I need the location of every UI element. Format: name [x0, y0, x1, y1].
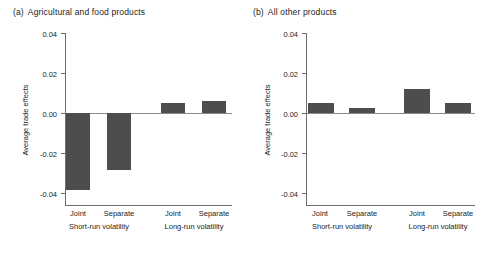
panel-a-ytick-1: 0.02	[61, 73, 66, 74]
panel-b-bar-label-0: Joint	[312, 209, 328, 218]
panel-a-ytick-label-0: 0.04	[42, 29, 57, 38]
panel-b: (b)All other products Average trade effe…	[242, 0, 484, 254]
panel-a-group-label-0: Short-run volatility	[69, 222, 129, 231]
panel-a-title: (a)Agricultural and food products	[13, 7, 145, 17]
panel-a: (a)Agricultural and food products Averag…	[0, 0, 242, 254]
panel-b-group-label-1: Long-run volatility	[409, 222, 468, 231]
panel-a-bar-1	[107, 113, 131, 170]
panel-b-ytick-label-1: 0.02	[283, 69, 298, 78]
panel-b-y-axis-line	[306, 33, 307, 205]
panel-b-ytick-0: 0.04	[302, 33, 307, 34]
panel-b-ytick-1: 0.02	[302, 73, 307, 74]
panel-a-ytick-0: 0.04	[61, 33, 66, 34]
panel-a-bar-label-3: Separate	[199, 209, 229, 218]
panel-b-plot-area: 0.04 0.02 0.00 -0.02 -0.04	[307, 33, 475, 193]
panel-b-group-label-0: Short-run volatility	[312, 222, 372, 231]
panel-a-plot-area: 0.04 0.02 0.00 -0.02 -0.04	[66, 33, 232, 193]
panel-b-ytick-4: -0.04	[302, 193, 307, 194]
panel-b-ytick-label-2: 0.00	[283, 109, 298, 118]
panel-b-ytick-label-3: -0.02	[281, 149, 298, 158]
panel-a-bar-0	[66, 113, 90, 190]
panel-a-group-label-1: Long-run volatility	[165, 222, 224, 231]
panel-b-title-text: All other products	[268, 7, 337, 17]
panel-a-ytick-label-4: -0.04	[40, 189, 57, 198]
panel-a-zero-line	[65, 113, 232, 114]
panel-b-ytick-3: -0.02	[302, 153, 307, 154]
panel-a-ytick-label-2: 0.00	[42, 109, 57, 118]
panel-b-ytick-label-4: -0.04	[281, 189, 298, 198]
panel-a-title-text: Agricultural and food products	[28, 7, 145, 17]
panel-b-title: (b)All other products	[253, 7, 337, 17]
panel-a-bar-label-0: Joint	[70, 209, 86, 218]
panel-a-tag: (a)	[13, 7, 24, 17]
panel-a-x-axis-line	[65, 205, 232, 206]
panel-a-ytick-label-3: -0.02	[40, 149, 57, 158]
panel-b-ytick-2: 0.00	[302, 113, 307, 114]
panel-b-bar-label-3: Separate	[443, 209, 473, 218]
panel-b-bar-3	[445, 103, 471, 113]
panel-b-ytick-label-0: 0.04	[283, 29, 298, 38]
panel-b-zero-line	[306, 113, 475, 114]
panel-b-bar-0	[308, 103, 334, 113]
panel-a-ytick-label-1: 0.02	[42, 69, 57, 78]
figure-container: (a)Agricultural and food products Averag…	[0, 0, 485, 254]
panel-b-y-axis-label: Average trade effects	[263, 84, 272, 155]
panel-b-bar-1	[349, 108, 375, 113]
panel-a-y-axis-label: Average trade effects	[21, 84, 30, 155]
panel-b-tag: (b)	[253, 7, 264, 17]
panel-a-ytick-4: -0.04	[61, 193, 66, 194]
panel-a-bar-label-2: Joint	[165, 209, 181, 218]
panel-b-x-axis-line	[306, 205, 475, 206]
panel-b-bar-label-2: Joint	[409, 209, 425, 218]
panel-b-bar-2	[404, 89, 430, 113]
panel-b-bar-label-1: Separate	[347, 209, 377, 218]
panel-a-bar-2	[161, 103, 185, 113]
panel-a-bar-3	[202, 101, 226, 113]
panel-a-bar-label-1: Separate	[104, 209, 134, 218]
